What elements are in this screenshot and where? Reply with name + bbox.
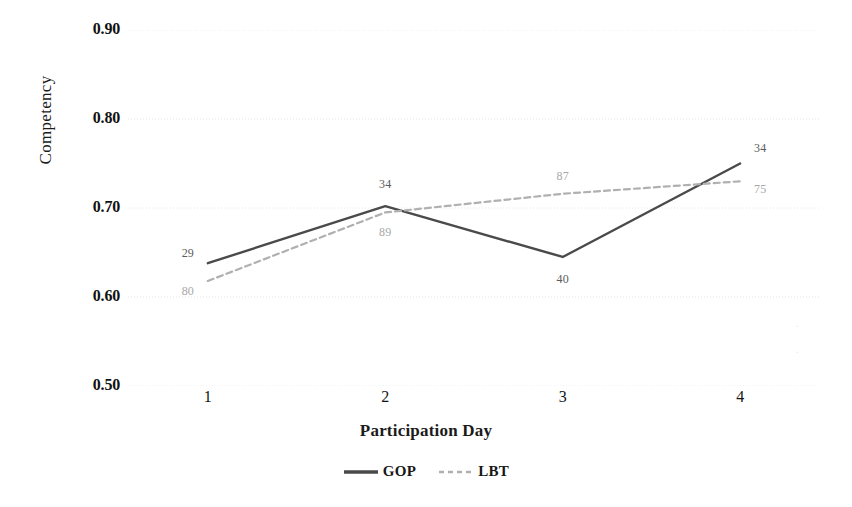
y-tick-0.90: 0.90	[62, 20, 120, 38]
x-tick-4: 4	[720, 388, 760, 406]
legend-item-gop[interactable]: GOP	[343, 463, 416, 480]
legend-swatch-gop-icon	[343, 467, 379, 477]
x-axis-title: Participation Day	[0, 421, 852, 441]
point-label-gop-day1: 29	[182, 246, 194, 261]
legend-swatch-lbt-icon	[438, 467, 474, 477]
point-label-gop-day4: 34	[754, 140, 766, 155]
point-label-gop-day3: 40	[557, 271, 569, 286]
y-tick-0.80: 0.80	[62, 109, 120, 127]
gridlines	[128, 30, 820, 386]
point-label-lbt-day4: 75	[754, 182, 766, 197]
point-label-lbt-day3: 87	[557, 168, 569, 183]
point-label-lbt-day1: 80	[182, 283, 194, 298]
legend-label-gop: GOP	[383, 463, 416, 480]
x-tick-1: 1	[188, 388, 228, 406]
y-tick-0.60: 0.60	[62, 287, 120, 305]
scan-artifact-bottom: ·	[795, 344, 799, 360]
point-label-lbt-day2: 89	[379, 225, 391, 240]
legend-label-lbt: LBT	[478, 463, 509, 480]
chart-legend: GOPLBT	[0, 463, 852, 480]
plot-area: 2934403480898775	[128, 30, 820, 386]
scan-artifact-top: ·	[795, 318, 799, 334]
series-line-gop	[208, 164, 740, 264]
y-tick-0.70: 0.70	[62, 198, 120, 216]
x-tick-2: 2	[365, 388, 405, 406]
competency-line-chart: Competency 0.900.800.700.600.50 1234 293…	[0, 0, 852, 507]
y-axis-title: Competency	[36, 10, 60, 230]
plot-svg	[128, 30, 820, 386]
x-tick-3: 3	[543, 388, 583, 406]
legend-item-lbt[interactable]: LBT	[438, 463, 509, 480]
series-lines	[208, 164, 740, 281]
point-label-gop-day2: 34	[379, 177, 391, 192]
y-tick-0.50: 0.50	[62, 376, 120, 394]
